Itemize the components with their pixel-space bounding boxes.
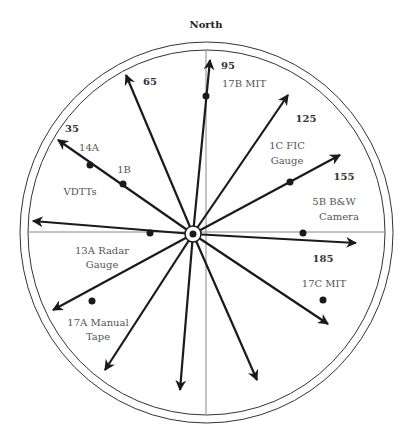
instrument-label-17a-line1: 17A Manual <box>67 317 128 328</box>
instrument-label-17b: 17B MIT <box>222 78 266 89</box>
angle-label-35: 35 <box>65 123 79 134</box>
instrument-label-13a-line2: Gauge <box>86 259 119 270</box>
instrument-dot-1c <box>287 179 294 186</box>
instrument-label-17c: 17C MIT <box>302 278 347 289</box>
instrument-dot-17b <box>203 93 210 100</box>
instrument-label-1c-line2: Gauge <box>271 155 304 166</box>
instrument-dot-17a <box>89 298 96 305</box>
instrument-label-1b: 1B <box>117 164 131 175</box>
arrow-185 <box>193 234 356 243</box>
angle-label-65: 65 <box>143 76 157 87</box>
instrument-dot-1b <box>120 181 127 188</box>
angle-label-125: 125 <box>296 113 317 124</box>
angle-label-185: 185 <box>313 253 334 264</box>
instrument-dot-5b <box>300 230 307 237</box>
hub-dot <box>190 231 197 238</box>
arrow-155 <box>193 155 340 234</box>
instrument-label-5b-line2: Camera <box>319 211 359 222</box>
instrument-dot-14a <box>87 162 94 169</box>
arrow-bottom <box>180 234 193 390</box>
angle-label-155: 155 <box>334 171 355 182</box>
instrument-label-13a-line1: 13A Radar <box>75 245 129 256</box>
radial-diagram: North 35 65 95 125 155 185 1 <box>0 0 408 437</box>
instrument-label-vdtts: VDTTs <box>62 186 96 197</box>
instrument-label-14a: 14A <box>79 142 100 153</box>
north-label: North <box>190 19 224 30</box>
instrument-label-1c-line1: 1C FIC <box>269 140 305 151</box>
instrument-dot-13a <box>147 230 154 237</box>
instrument-label-5b-line1: 5B B&W <box>312 196 356 207</box>
angle-label-95: 95 <box>221 60 235 71</box>
arrow-95 <box>193 60 210 234</box>
instrument-dot-17c <box>320 297 327 304</box>
instrument-label-17a-line2: Tape <box>86 331 110 342</box>
